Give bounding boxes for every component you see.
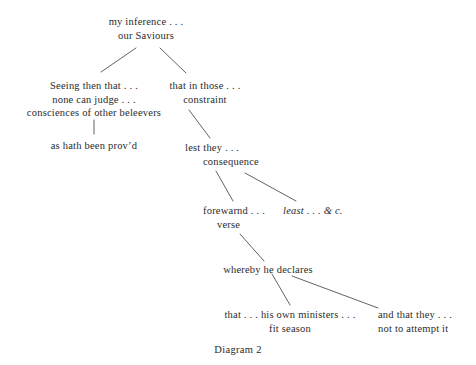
node-whereby: whereby he declares xyxy=(223,263,313,277)
node-forewarnd: forewarnd . . . verse xyxy=(203,204,265,231)
edge-root-to-left xyxy=(101,48,136,72)
node-forewarnd-line1: forewarnd . . . xyxy=(203,204,265,218)
node-right-branch-line1: that in those . . . xyxy=(169,79,240,93)
node-left-branch-line1: Seeing then that . . . xyxy=(27,79,161,93)
edge-constraint-to-lest xyxy=(189,110,210,138)
node-ministers-line1: that . . . his own ministers . . . xyxy=(224,308,355,322)
node-whereby-line1: whereby he declares xyxy=(223,263,313,277)
node-right-branch-line2: constraint xyxy=(169,93,240,107)
node-left-branch: Seeing then that . . . none can judge . … xyxy=(27,79,161,120)
node-ministers-line2: fit season xyxy=(224,322,355,336)
node-root-line2: our Saviours xyxy=(109,29,184,43)
node-attempt-line1: and that they . . . xyxy=(378,308,452,322)
edge-root-to-right xyxy=(160,48,186,73)
node-ministers: that . . . his own ministers . . . fit s… xyxy=(224,308,355,335)
node-root: my inference . . . our Saviours xyxy=(109,15,184,42)
node-lest-they-line1: lest they . . . xyxy=(185,141,259,155)
node-forewarnd-line2: verse xyxy=(203,218,265,232)
node-left-leaf-line1: as hath been prov’d xyxy=(51,139,138,153)
node-left-leaf: as hath been prov’d xyxy=(51,139,138,153)
node-least: least . . . & c. xyxy=(283,204,343,218)
node-attempt-line2: not to attempt it xyxy=(378,322,452,336)
node-left-branch-line2: none can judge . . . xyxy=(27,93,161,107)
diagram-caption: Diagram 2 xyxy=(214,344,261,355)
edge-whereby-to-attempt xyxy=(292,276,378,308)
node-lest-they-line2: consequence xyxy=(185,155,259,169)
edge-consequence-to-least xyxy=(245,173,296,201)
edge-consequence-to-forewarnd xyxy=(216,171,233,201)
edge-verse-to-whereby xyxy=(240,234,264,261)
node-lest-they: lest they . . . consequence xyxy=(185,141,259,168)
node-right-branch: that in those . . . constraint xyxy=(169,79,240,106)
node-left-branch-line3: consciences of other beleevers xyxy=(27,106,161,120)
tree-diagram: my inference . . . our Saviours Seeing t… xyxy=(0,0,476,365)
node-root-line1: my inference . . . xyxy=(109,15,184,29)
node-attempt: and that they . . . not to attempt it xyxy=(378,308,452,335)
edge-whereby-to-ministers xyxy=(272,274,290,305)
node-least-line1: least . . . & c. xyxy=(283,205,343,216)
